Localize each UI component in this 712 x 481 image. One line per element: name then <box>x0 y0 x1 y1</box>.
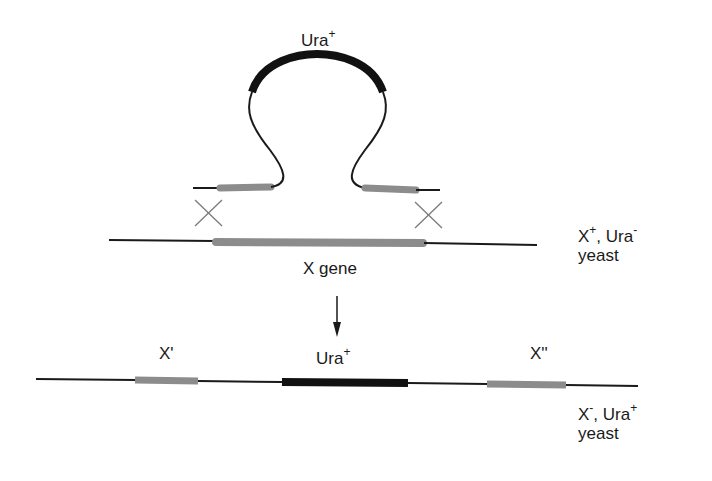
x-double-prime-label: X'' <box>530 344 548 363</box>
plasmid-right-homology <box>365 188 416 190</box>
ura-marker-segment <box>282 382 408 383</box>
product-chromosome <box>36 379 638 386</box>
plasmid-left-homology <box>220 187 271 188</box>
chromosome <box>109 240 537 245</box>
plasmid-ura-label: Ura+ <box>301 26 335 50</box>
chromosome-left-line <box>109 240 215 241</box>
plasmid-construct <box>193 54 440 190</box>
x-gene-label: X gene <box>303 259 357 278</box>
arrow-down-icon <box>333 296 341 337</box>
strain-label-before: X+, Ura- yeast <box>578 222 637 265</box>
plasmid-left-arm <box>249 92 283 187</box>
product-ura-label: Ura+ <box>316 344 350 368</box>
strain-label-after: X-, Ura+ yeast <box>578 400 637 443</box>
x-prime-segment <box>135 380 198 381</box>
plasmid-right-arm <box>352 92 386 188</box>
chromosome-right-line <box>424 243 537 245</box>
crossover-left-icon <box>195 200 222 226</box>
x-double-prime-segment <box>487 384 566 385</box>
crossover-right-icon <box>415 202 442 228</box>
x-gene-segment <box>216 242 423 243</box>
x-prime-label: X' <box>159 344 174 363</box>
ura-marker-arc <box>252 54 383 92</box>
